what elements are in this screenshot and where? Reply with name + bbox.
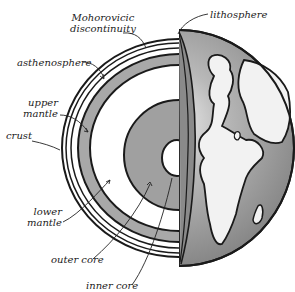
island-small <box>234 132 240 140</box>
label-outer-core: outer core <box>51 254 104 265</box>
leader-crust <box>32 141 60 150</box>
label-crust: crust <box>6 130 32 141</box>
label-mohorovicic-discontinuity: Mohorovicic discontinuity <box>66 12 140 34</box>
label-inner-core: inner core <box>86 280 138 291</box>
label-lithosphere: lithosphere <box>210 9 267 20</box>
label-upper-mantle: upper mantle <box>20 97 58 119</box>
earth-cutaway-diagram <box>0 0 295 292</box>
label-lower-mantle: lower mantle <box>22 206 62 228</box>
label-asthenosphere: asthenosphere <box>17 57 92 68</box>
